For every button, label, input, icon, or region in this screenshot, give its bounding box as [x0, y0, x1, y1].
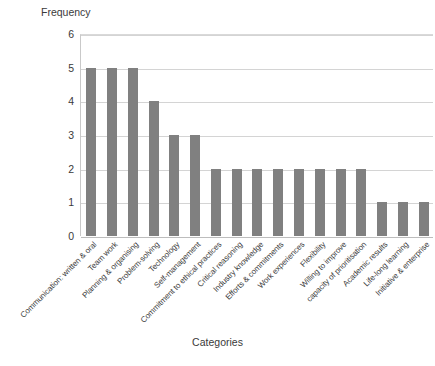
y-axis-tick-label: 5 — [52, 62, 74, 74]
y-axis-title: Frequency — [41, 6, 91, 18]
bar-slot — [392, 35, 413, 236]
bar[interactable] — [107, 68, 117, 236]
bar[interactable] — [419, 202, 429, 236]
bar-slot — [309, 35, 330, 236]
bar-slot — [330, 35, 351, 236]
bar[interactable] — [377, 202, 387, 236]
bar-slot — [351, 35, 372, 236]
x-axis-title: Categories — [0, 336, 435, 348]
bar[interactable] — [273, 169, 283, 236]
bar[interactable] — [356, 169, 366, 236]
y-axis-tick-label: 1 — [52, 196, 74, 208]
bar[interactable] — [211, 169, 221, 236]
bar[interactable] — [190, 135, 200, 236]
bar[interactable] — [169, 135, 179, 236]
bar-slot — [102, 35, 123, 236]
x-axis-tick-label: Communication: written & oral — [19, 240, 99, 320]
bar-slot — [185, 35, 206, 236]
bar-slot — [143, 35, 164, 236]
bar[interactable] — [232, 169, 242, 236]
bar[interactable] — [252, 169, 262, 236]
bar[interactable] — [398, 202, 408, 236]
bar[interactable] — [294, 169, 304, 236]
bars-layer — [81, 35, 433, 236]
bar-slot — [413, 35, 434, 236]
bar-slot — [289, 35, 310, 236]
bar-slot — [123, 35, 144, 236]
bar-slot — [226, 35, 247, 236]
y-axis-tick-labels: 6543210 — [52, 34, 74, 236]
bar-slot — [206, 35, 227, 236]
y-axis-tick-label: 0 — [52, 230, 74, 242]
bar-slot — [247, 35, 268, 236]
bar[interactable] — [336, 169, 346, 236]
bar[interactable] — [315, 169, 325, 236]
bar[interactable] — [128, 68, 138, 236]
bar-chart: Frequency 6543210 Communication: written… — [0, 0, 435, 366]
plot-area — [80, 34, 433, 236]
bar-slot — [81, 35, 102, 236]
y-axis-tick-label: 3 — [52, 129, 74, 141]
bar-slot — [164, 35, 185, 236]
bar-slot — [372, 35, 393, 236]
x-axis-tick-labels: Communication: written & oralTeam workPl… — [80, 236, 433, 331]
bar[interactable] — [86, 68, 96, 236]
bar-slot — [268, 35, 289, 236]
y-axis-tick-label: 6 — [52, 28, 74, 40]
y-axis-tick-label: 4 — [52, 95, 74, 107]
bar[interactable] — [149, 101, 159, 236]
y-axis-tick-label: 2 — [52, 163, 74, 175]
